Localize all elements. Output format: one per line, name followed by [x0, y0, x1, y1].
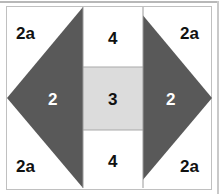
label-corner-bottom-right: 2a — [180, 158, 199, 175]
label-triangle-left: 2 — [48, 91, 57, 108]
label-triangle-right: 2 — [166, 91, 175, 108]
label-corner-bottom-left: 2a — [16, 158, 35, 175]
label-corner-top-left: 2a — [16, 25, 35, 42]
label-corner-top-right: 2a — [180, 25, 199, 42]
label-sash-top: 4 — [108, 30, 117, 47]
quilt-block-diagram: 2a 2a 2a 2a 2 2 4 4 3 — [0, 0, 219, 194]
label-center-square: 3 — [108, 91, 117, 108]
label-sash-bottom: 4 — [108, 153, 117, 170]
